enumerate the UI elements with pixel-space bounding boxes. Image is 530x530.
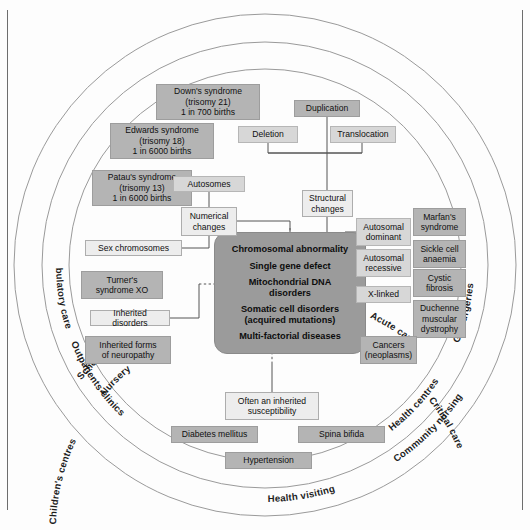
node-autosomes[interactable]: Autosomes	[173, 176, 245, 192]
node-sickle-cell-anaemia[interactable]: Sickle cell anaemia	[413, 240, 466, 268]
core-line-mitochondrial-dna: Mitochondrial DNA disorders	[249, 277, 332, 298]
node-autosomal-dominant[interactable]: Autosomal dominant	[356, 218, 411, 246]
node-translocation[interactable]: Translocation	[330, 126, 396, 143]
node-duplication[interactable]: Duplication	[294, 100, 360, 117]
ring-label-childrens-centres: Children's centres	[47, 437, 78, 525]
node-inherited-forms-of-neuropathy[interactable]: Inherited forms of neuropathy	[85, 336, 171, 364]
node-x-linked[interactable]: X-linked	[356, 286, 411, 303]
core-node-genetic-disorders[interactable]: Chromosomal abnormality Single gene defe…	[214, 232, 366, 354]
ring-label-ambulatory-care: Ambulatory care	[0, 0, 75, 330]
node-downs-syndrome[interactable]: Down's syndrome (trisomy 21) 1 in 700 bi…	[156, 84, 260, 120]
node-numerical-changes[interactable]: Numerical changes	[181, 207, 237, 236]
node-cancers-neoplasms[interactable]: Cancers (neoplasms)	[360, 336, 417, 364]
core-line-somatic-cell-disorders: Somatic cell disorders (acquired mutatio…	[241, 304, 339, 325]
node-spina-bifida[interactable]: Spina bifida	[298, 426, 385, 443]
node-sex-chromosomes[interactable]: Sex chromosomes	[85, 240, 182, 256]
node-autosomal-recessive[interactable]: Autosomal recessive	[356, 249, 411, 277]
node-cystic-fibrosis[interactable]: Cystic fibrosis	[413, 269, 466, 297]
node-structural-changes[interactable]: Structural changes	[302, 190, 353, 217]
ring-label-health-visiting: Health visiting	[268, 483, 337, 504]
node-turners-syndrome[interactable]: Turner's syndrome XO	[81, 271, 163, 299]
node-duchenne-muscular-dystrophy[interactable]: Duchenne muscular dystrophy	[413, 300, 466, 338]
node-deletion[interactable]: Deletion	[238, 126, 298, 143]
core-line-single-gene-defect: Single gene defect	[249, 261, 330, 272]
node-hypertension[interactable]: Hypertension	[225, 452, 312, 469]
node-inherited-disorders[interactable]: Inherited disorders	[90, 310, 170, 326]
figure-canvas: School Home Acute care Health visiting C…	[0, 0, 530, 530]
core-line-chromosomal-abnormality: Chromosomal abnormality	[232, 244, 348, 255]
node-marfans-syndrome[interactable]: Marfan's syndrome	[413, 208, 466, 236]
node-often-inherited-susceptibility[interactable]: Often an inherited susceptibility	[225, 392, 319, 420]
node-edwards-syndrome[interactable]: Edwards syndrome (trisomy 18) 1 in 6000 …	[110, 123, 214, 159]
core-line-multifactorial-diseases: Multi-factorial diseases	[239, 331, 341, 342]
node-diabetes-mellitus[interactable]: Diabetes mellitus	[171, 426, 258, 443]
